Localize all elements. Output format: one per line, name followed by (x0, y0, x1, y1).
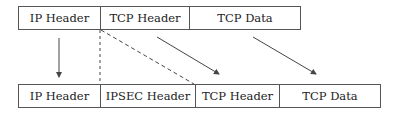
dashed-diagonal-line (101, 30, 194, 84)
connectors-layer (0, 0, 394, 114)
tcp-data-arrow (253, 37, 316, 74)
tcp-header-arrow (157, 37, 219, 74)
